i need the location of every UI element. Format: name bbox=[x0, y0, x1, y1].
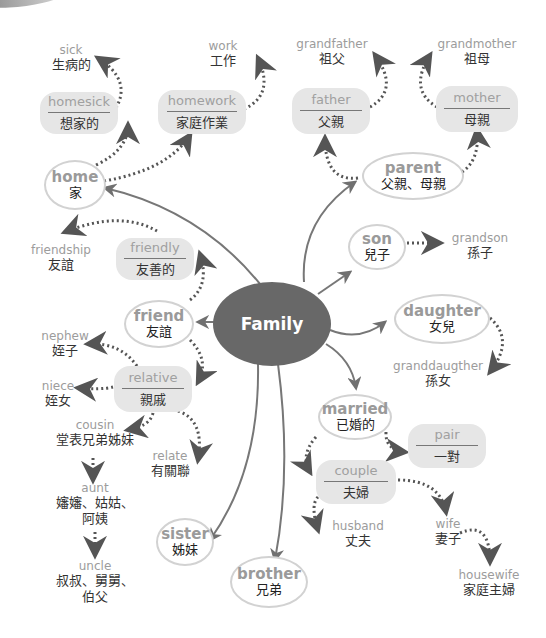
node-couple: couple 夫婦 bbox=[316, 460, 396, 504]
node-relate: relate 有關聯 bbox=[142, 450, 198, 479]
divider bbox=[122, 388, 184, 389]
node-niece: niece 姪女 bbox=[36, 380, 80, 409]
divider bbox=[324, 481, 388, 482]
node-married: married 已婚的 bbox=[318, 394, 392, 440]
node-sister: sister 姊妹 bbox=[156, 518, 214, 566]
node-granddaughter: granddaugther 孫女 bbox=[392, 360, 484, 389]
node-cousin: cousin 堂表兄弟姊妹 bbox=[50, 419, 140, 448]
node-wife: wife 妻子 bbox=[430, 518, 466, 547]
node-relative: relative 親戚 bbox=[114, 366, 192, 412]
node-homesick: homesick 想家的 bbox=[40, 92, 118, 134]
node-sick: sick 生病的 bbox=[46, 44, 96, 73]
node-father: father 父親 bbox=[292, 88, 370, 134]
node-nephew: nephew 姪子 bbox=[38, 330, 92, 359]
center-node-family: Family bbox=[213, 282, 331, 366]
node-grandfather: grandfather 祖父 bbox=[292, 38, 372, 67]
node-daughter: daughter 女兒 bbox=[394, 294, 490, 344]
node-work: work 工作 bbox=[200, 40, 246, 69]
node-pair: pair 一對 bbox=[408, 424, 486, 468]
family-mind-map: Family home 家 homesick 想家的 sick 生病的 home… bbox=[0, 0, 546, 638]
divider bbox=[48, 112, 110, 113]
node-mother: mother 母親 bbox=[436, 86, 518, 132]
divider bbox=[416, 445, 478, 446]
node-aunt: aunt 嬸嬸、姑姑、 阿姨 bbox=[50, 482, 140, 526]
node-home: home 家 bbox=[44, 160, 106, 210]
node-grandmother: grandmother 祖母 bbox=[432, 38, 522, 67]
node-friendly: friendly 友善的 bbox=[116, 238, 194, 280]
node-son: son 兒子 bbox=[348, 224, 406, 270]
node-friendship: friendship 友誼 bbox=[26, 244, 96, 273]
divider bbox=[444, 108, 510, 109]
node-homework: homework 家庭作業 bbox=[158, 90, 246, 134]
center-label: Family bbox=[241, 314, 304, 334]
node-grandson: grandson 孫子 bbox=[445, 232, 515, 261]
divider bbox=[300, 110, 362, 111]
divider bbox=[167, 111, 237, 112]
node-uncle: uncle 叔叔、舅舅、 伯父 bbox=[50, 560, 140, 604]
divider bbox=[124, 258, 186, 259]
node-husband: husband 丈夫 bbox=[330, 520, 386, 549]
node-brother: brother 兄弟 bbox=[230, 556, 308, 608]
node-parent: parent 父親、母親 bbox=[362, 152, 464, 200]
node-housewife: housewife 家庭主婦 bbox=[454, 569, 524, 598]
node-friend: friend 友誼 bbox=[124, 300, 194, 348]
